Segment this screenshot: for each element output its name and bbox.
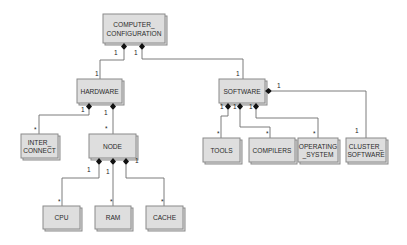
mult-sw-os-part: * (313, 130, 316, 137)
class-operating-system-label-2: _SYSTEM (302, 151, 334, 159)
class-cluster-software-label-1: CLUSTER_ (349, 143, 384, 151)
mult-sw-cluster-whole: 1 (277, 82, 281, 89)
class-cpu-label: CPU (55, 214, 69, 221)
multiplicity-labels: 1 1 1 1 1 * 1 * 1 * 1 * 1 * 1 1 1 * 1 * … (34, 49, 359, 205)
connector-software-tools (221, 110, 228, 138)
connector-node-cache (126, 165, 164, 206)
class-cache-label: CACHE (153, 214, 177, 221)
mult-cc-sw-whole: 1 (134, 49, 138, 56)
class-ram-label: RAM (106, 214, 121, 221)
class-tools-label: TOOLS (210, 147, 233, 154)
mult-hw-ic-part: * (34, 126, 37, 133)
class-node-label: NODE (103, 143, 123, 150)
mult-hw-node-whole: 1 (104, 109, 108, 116)
connector-cc-software (142, 50, 243, 79)
mult-node-ram-whole: 1 (106, 168, 110, 175)
class-compilers[interactable]: COMPILERS (249, 138, 297, 164)
class-software[interactable]: SOFTWARE (219, 79, 267, 105)
class-hardware-label: HARDWARE (80, 88, 119, 95)
class-computer-configuration-label-2: CONFIGURATION (107, 30, 162, 37)
class-tools[interactable]: TOOLS (203, 138, 242, 164)
mult-node-cpu-part: * (58, 198, 61, 205)
class-computer-configuration-label-1: COMPUTER_ (113, 21, 155, 29)
mult-hw-ic-whole: 1 (81, 106, 85, 113)
class-compilers-label: COMPILERS (253, 147, 292, 154)
class-operating-system[interactable]: OPERATING _SYSTEM (298, 138, 340, 164)
mult-node-cache-whole: 1 (135, 157, 139, 164)
class-ram[interactable]: RAM (95, 206, 133, 231)
class-hardware[interactable]: HARDWARE (77, 79, 124, 105)
class-cpu[interactable]: CPU (43, 206, 82, 231)
mult-cc-sw-part: 1 (236, 70, 240, 77)
connector-cc-hardware (100, 50, 124, 79)
mult-cc-hw-part: 1 (95, 70, 99, 77)
connectors (39, 50, 366, 206)
class-cluster-software-label-2: SOFTWARE (347, 151, 385, 158)
class-computer-configuration[interactable]: COMPUTER_ CONFIGURATION (103, 14, 167, 45)
class-inter-connect-label-2: CONNECT (23, 147, 56, 154)
class-operating-system-label-1: OPERATING (299, 143, 337, 150)
mult-node-cpu-whole: 1 (87, 166, 91, 173)
mult-sw-cluster-part: 1 (355, 127, 359, 134)
uml-diagram: COMPUTER_ CONFIGURATION HARDWARE SOFTWAR… (0, 0, 407, 245)
mult-sw-tools-part: * (217, 130, 220, 137)
class-inter-connect-label-1: INTER_ (28, 139, 52, 147)
mult-hw-node-part: * (105, 125, 108, 132)
class-software-label: SOFTWARE (223, 88, 261, 95)
class-cache[interactable]: CACHE (146, 206, 185, 231)
connector-software-cluster (272, 91, 366, 138)
class-node[interactable]: NODE (89, 134, 138, 160)
mult-sw-comp-part: * (266, 130, 269, 137)
mult-sw-tools-whole: 1 (220, 103, 224, 110)
mult-sw-comp-whole: 1 (233, 103, 237, 110)
class-cluster-software[interactable]: CLUSTER_ SOFTWARE (346, 138, 388, 164)
connector-node-cpu (62, 165, 99, 206)
class-inter-connect[interactable]: INTER_ CONNECT (21, 134, 60, 160)
mult-sw-os-whole: 1 (249, 103, 253, 110)
mult-cc-hw-whole: 1 (114, 49, 118, 56)
connector-hardware-interconnect (39, 110, 89, 134)
